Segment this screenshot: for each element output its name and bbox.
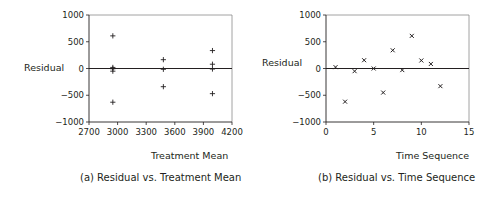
x-marker [391,48,395,52]
chart-panel-a: 10005000−500−100027003000330036003900420… [0,0,250,198]
y-axis-label: Residual [24,62,64,73]
plus-marker [210,62,215,67]
plus-marker [161,67,166,72]
x-tick-label: 3900 [193,127,215,137]
x-axis-label: Time Sequence [396,150,469,161]
y-axis-label: Residual [262,57,302,68]
x-tick-label: 2700 [78,127,100,137]
x-marker [381,91,385,95]
x-tick-label: 3600 [164,127,186,137]
x-marker [362,58,366,62]
plus-marker [110,100,115,105]
plus-marker [210,91,215,96]
x-marker [410,34,414,38]
x-marker [429,62,433,66]
y-tick-label: 1000 [299,10,321,20]
plus-marker [161,84,166,89]
y-tick-label: 500 [68,37,84,47]
y-tick-label: −500 [61,90,84,100]
y-tick-label: −1000 [292,117,321,127]
x-tick-label: 10 [416,127,427,137]
y-tick-label: 0 [79,64,84,74]
scatter-plot-residual-vs-time-sequence: 10005000−500−1000051015 [250,0,495,198]
y-tick-label: 0 [316,64,321,74]
plus-marker [110,33,115,38]
y-tick-label: 500 [305,37,321,47]
y-tick-label: −1000 [55,117,84,127]
y-tick-label: −500 [298,90,321,100]
x-tick-label: 3300 [135,127,157,137]
x-tick-label: 5 [371,127,376,137]
x-tick-label: 4200 [221,127,243,137]
plus-marker [210,48,215,53]
scatter-plot-residual-vs-treatment-mean: 10005000−500−100027003000330036003900420… [0,0,250,198]
plus-marker [161,57,166,62]
y-tick-label: 1000 [62,10,84,20]
x-tick-label: 0 [323,127,328,137]
x-marker [419,58,423,62]
plus-marker [110,69,115,74]
plus-marker [210,66,215,71]
x-marker [343,100,347,104]
x-tick-label: 15 [464,127,475,137]
x-tick-label: 3000 [107,127,129,137]
x-axis-label: Treatment Mean [151,150,228,161]
x-marker [353,69,357,73]
x-marker [438,84,442,88]
chart-caption: (b) Residual vs. Time Sequence [318,172,475,183]
chart-panel-b: 10005000−500−1000051015 Residual Time Se… [250,0,495,198]
chart-caption: (a) Residual vs. Treatment Mean [80,172,241,183]
